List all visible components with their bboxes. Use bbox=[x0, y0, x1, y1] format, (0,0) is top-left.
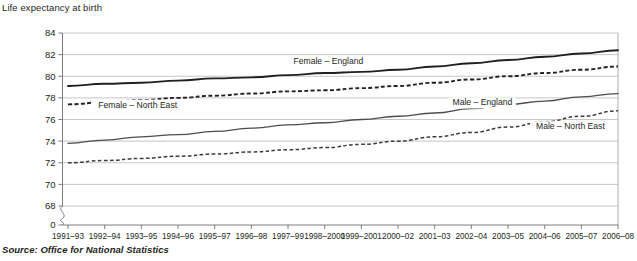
x-tick-label: 2005–07 bbox=[565, 232, 597, 241]
x-tick-label: 1992–94 bbox=[89, 232, 121, 241]
chart-page: Life expectancy at birth 068707274767880… bbox=[0, 0, 637, 261]
y-tick-label: 80 bbox=[45, 71, 56, 82]
x-tick-label: 2006–08 bbox=[602, 232, 634, 241]
y-tick-label: 78 bbox=[45, 92, 56, 103]
y-tick-label: 70 bbox=[45, 179, 56, 190]
x-tick-label: 1995–97 bbox=[199, 232, 231, 241]
series-label-female-england: Female – England bbox=[293, 56, 363, 66]
x-axis: 1991–931992–941993–951994–961995–971996–… bbox=[52, 225, 634, 241]
y-tick-label: 74 bbox=[45, 136, 56, 147]
x-tick-label: 1999–2001 bbox=[341, 232, 382, 241]
x-tick-label: 2003–05 bbox=[492, 232, 524, 241]
x-tick-label: 1998–2000 bbox=[304, 232, 345, 241]
x-tick-label: 1993–95 bbox=[125, 232, 157, 241]
x-tick-label: 1991–93 bbox=[52, 232, 84, 241]
x-tick-label: 2002–04 bbox=[455, 232, 487, 241]
source-note: Source: Office for National Statistics bbox=[2, 244, 169, 255]
y-tick-label: 0 bbox=[50, 219, 55, 230]
y-tick-label: 76 bbox=[45, 114, 56, 125]
y-tick-label: 84 bbox=[45, 27, 56, 38]
series-label-female-north-east: Female – North East bbox=[98, 100, 177, 110]
series-label-male-north-east: Male – North East bbox=[536, 121, 605, 131]
line-chart: 0687072747678808284 1991–931992–941993–9… bbox=[0, 0, 637, 261]
x-tick-label: 1994–96 bbox=[162, 232, 194, 241]
x-tick-label: 2000–02 bbox=[382, 232, 414, 241]
x-tick-label: 1997–99 bbox=[272, 232, 304, 241]
x-tick-label: 2004–06 bbox=[529, 232, 561, 241]
x-tick-label: 2001–03 bbox=[419, 232, 451, 241]
x-tick-label: 1996–98 bbox=[235, 232, 267, 241]
y-axis-break-icon bbox=[61, 206, 65, 225]
y-tick-label: 72 bbox=[45, 157, 56, 168]
series-labels: Female – EnglandFemale – North EastMale … bbox=[93, 56, 611, 132]
y-tick-label: 68 bbox=[45, 200, 56, 211]
y-axis: 0687072747678808284 bbox=[45, 27, 63, 230]
y-tick-label: 82 bbox=[45, 49, 56, 60]
series-label-male-england: Male – England bbox=[453, 97, 513, 107]
